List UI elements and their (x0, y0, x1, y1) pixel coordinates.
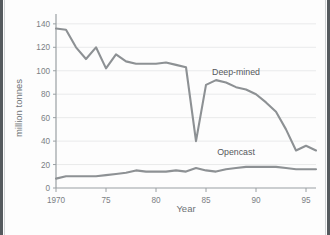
line-chart: 020406080100120140 19707580859095 Deep-m… (0, 0, 330, 235)
gridlines-group (56, 24, 316, 165)
x-axis-title: Year (176, 203, 195, 214)
y-axis-title: million tonnes (13, 79, 24, 137)
y-tick-label-100: 100 (36, 67, 50, 76)
y-tick-label-80: 80 (41, 90, 51, 99)
x-tick-label-1985: 85 (201, 196, 211, 205)
x-tick-label-1980: 80 (151, 196, 161, 205)
x-tick-label-1995: 95 (301, 196, 311, 205)
axis-lines-group (56, 14, 316, 188)
x-tick-label-1970: 1970 (47, 196, 66, 205)
y-tick-label-40: 40 (41, 137, 51, 146)
y-tick-label-140: 140 (36, 20, 50, 29)
y-tick-label-0: 0 (45, 184, 50, 193)
y-tick-label-60: 60 (41, 114, 51, 123)
series-annotation-opencast: Opencast (217, 147, 255, 157)
x-tick-label-1975: 75 (101, 196, 111, 205)
chart-canvas: 020406080100120140 19707580859095 Deep-m… (0, 0, 330, 235)
series-line-opencast (56, 167, 316, 179)
series-paths-group (56, 29, 316, 179)
y-tick-labels-group: 020406080100120140 (36, 20, 50, 193)
series-annotation-deep-mined: Deep-mined (212, 67, 260, 77)
x-tick-marks-group (56, 188, 306, 192)
chart-page: 020406080100120140 19707580859095 Deep-m… (0, 0, 330, 235)
y-tick-label-20: 20 (41, 161, 51, 170)
y-tick-label-120: 120 (36, 43, 50, 52)
x-tick-label-1990: 90 (251, 196, 261, 205)
